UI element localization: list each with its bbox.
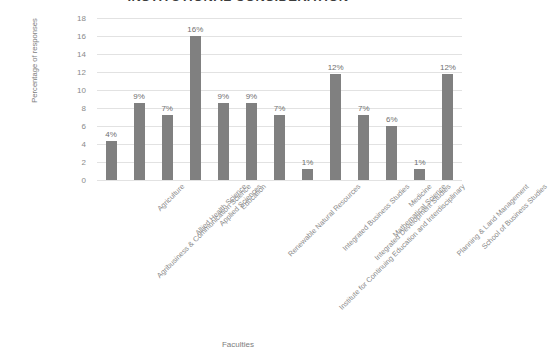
category-label: Planning & Land Management (455, 182, 531, 258)
y-tick-label: 8 (82, 104, 86, 113)
gridline (97, 36, 462, 37)
bar[interactable] (162, 115, 173, 180)
bar-value-label: 9% (208, 92, 238, 101)
bar-value-label: 7% (152, 104, 182, 113)
x-axis-title: Faculties (0, 340, 476, 349)
category-label: Agriculture (155, 182, 186, 213)
y-tick-label: 6 (82, 122, 86, 131)
bar-value-label: 7% (349, 104, 379, 113)
bar[interactable] (386, 126, 397, 180)
bar[interactable] (106, 141, 117, 180)
y-tick-label: 16 (77, 32, 86, 41)
bar-value-label: 16% (180, 25, 210, 34)
bar[interactable] (274, 115, 285, 180)
bar[interactable] (414, 169, 425, 180)
y-axis-tick-labels: 024681012141618 (0, 18, 92, 180)
chart-title: INSTITUTIONAL CONSIDERATION (0, 0, 476, 4)
bar[interactable] (246, 103, 257, 180)
y-tick-label: 12 (77, 68, 86, 77)
y-tick-label: 14 (77, 50, 86, 59)
bar-value-label: 7% (265, 104, 295, 113)
bar[interactable] (442, 74, 453, 180)
bar-value-label: 9% (124, 92, 154, 101)
bar[interactable] (358, 115, 369, 180)
bar-value-label: 1% (405, 158, 435, 167)
bar[interactable] (218, 103, 229, 180)
bar-value-label: 9% (236, 92, 266, 101)
gridline (97, 54, 462, 55)
gridline (97, 72, 462, 73)
gridline (97, 18, 462, 19)
y-tick-label: 10 (77, 86, 86, 95)
y-tick-label: 0 (82, 176, 86, 185)
bar[interactable] (134, 103, 145, 180)
bar[interactable] (330, 74, 341, 180)
y-tick-label: 4 (82, 140, 86, 149)
bar-value-label: 12% (433, 63, 463, 72)
bar-value-label: 6% (377, 115, 407, 124)
category-label: Institute for Continuing Education and I… (337, 182, 467, 312)
gridline (97, 180, 462, 181)
bar-value-label: 1% (293, 158, 323, 167)
bar-value-label: 4% (96, 130, 126, 139)
bar-value-label: 12% (321, 63, 351, 72)
y-tick-label: 18 (77, 14, 86, 23)
x-axis-category-labels: Agribusiness & Communication ScienceAgri… (97, 182, 476, 332)
bar[interactable] (302, 169, 313, 180)
bar[interactable] (190, 36, 201, 180)
y-tick-label: 2 (82, 158, 86, 167)
